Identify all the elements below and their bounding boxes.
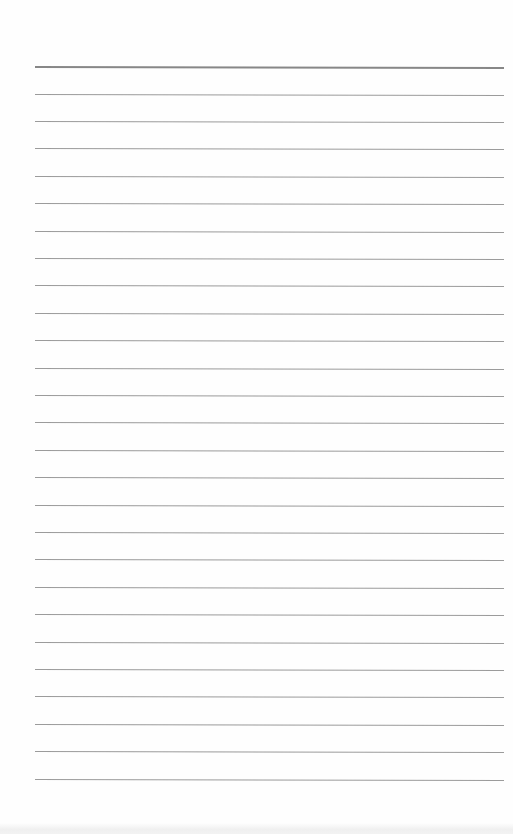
ruled-line [35, 669, 504, 671]
ruled-line [35, 422, 504, 424]
ruled-line [35, 176, 504, 178]
ruled-line [35, 696, 504, 698]
ruled-line [35, 340, 504, 342]
ruled-line [35, 724, 504, 726]
header-rule [35, 66, 504, 69]
ruled-line [35, 203, 504, 205]
ruled-line [35, 532, 504, 534]
ruled-line [35, 148, 504, 150]
ruled-line [35, 559, 504, 561]
ruled-line [35, 121, 504, 123]
ruled-line [35, 642, 504, 644]
ruled-line [35, 477, 504, 479]
ruled-line [35, 313, 504, 315]
ruled-line [35, 751, 504, 753]
ruled-line [35, 285, 504, 287]
ruled-line [35, 450, 504, 452]
scan-edge-noise [0, 823, 513, 834]
ruled-page [0, 0, 513, 834]
ruled-line [35, 395, 504, 397]
ruled-line [35, 779, 504, 781]
ruled-line [35, 368, 504, 370]
ruled-line [35, 94, 504, 96]
ruled-line [35, 587, 504, 589]
ruled-line [35, 614, 504, 616]
ruled-line [35, 231, 504, 233]
ruled-line [35, 258, 504, 260]
ruled-line [35, 505, 504, 507]
